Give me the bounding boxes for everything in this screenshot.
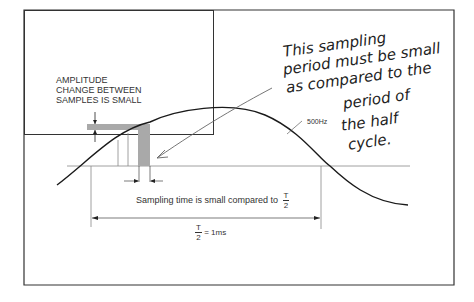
half-period-value: = 1ms bbox=[204, 228, 226, 237]
sampling-time-label: Sampling time is small compared to T 2 bbox=[136, 191, 289, 210]
amplitude-label-line: CHANGE BETWEEN bbox=[56, 85, 142, 95]
half-period-fraction: T 2 bbox=[195, 223, 202, 242]
fraction-denominator: 2 bbox=[283, 201, 290, 210]
arrow-right-icon bbox=[134, 179, 139, 183]
arrow-right-icon bbox=[314, 216, 320, 220]
frame-left-part bbox=[25, 11, 214, 135]
sampling-fraction: T 2 bbox=[283, 191, 290, 210]
frequency-leader bbox=[287, 121, 302, 134]
arrow-up-icon bbox=[93, 130, 97, 134]
annotation-arrow bbox=[157, 88, 272, 158]
amplitude-label: AMPLITUDE CHANGE BETWEEN SAMPLES IS SMAL… bbox=[56, 75, 142, 105]
fraction-numerator: T bbox=[283, 191, 290, 201]
sample-bar bbox=[138, 124, 150, 166]
fraction-denominator: 2 bbox=[195, 233, 202, 242]
sampling-time-text: Sampling time is small compared to bbox=[136, 195, 278, 205]
arrow-left-icon bbox=[150, 179, 155, 183]
arrow-down-icon bbox=[93, 120, 97, 124]
arrow-left-icon bbox=[92, 216, 98, 220]
fraction-numerator: T bbox=[195, 223, 202, 233]
amplitude-label-line: SAMPLES IS SMALL bbox=[56, 95, 142, 105]
frequency-label: 500Hz bbox=[307, 117, 327, 127]
half-period-label: T 2 = 1ms bbox=[195, 223, 226, 242]
amplitude-label-line: AMPLITUDE bbox=[56, 75, 142, 85]
